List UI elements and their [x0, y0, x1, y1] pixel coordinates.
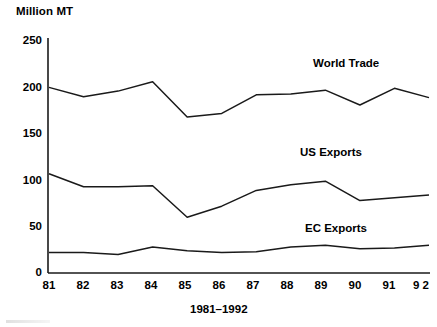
series-line-us-exports — [49, 174, 429, 218]
line-chart: Million MT 250 200 150 100 50 0 81 82 83… — [0, 0, 437, 327]
series-line-ec-exports — [49, 245, 429, 254]
plot-area — [0, 0, 437, 327]
series-line-world-trade — [49, 82, 429, 117]
scan-artifact — [6, 320, 50, 323]
